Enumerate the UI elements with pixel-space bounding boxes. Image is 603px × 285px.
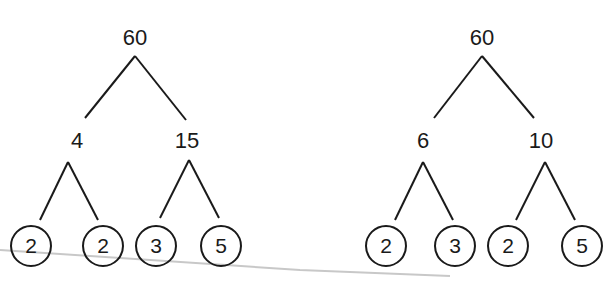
right-tree-root: 60	[470, 27, 494, 49]
left-tree-node-a: 4	[71, 130, 83, 152]
right-tree-leaf-1: 2	[365, 225, 407, 267]
left-tree-leaf-1: 2	[10, 225, 52, 267]
left-tree-root: 60	[123, 27, 147, 49]
right-tree-leaf-4: 5	[561, 225, 603, 267]
left-tree-leaf-2: 2	[82, 225, 124, 267]
right-tree-leaf-2: 3	[434, 225, 476, 267]
right-tree-node-a: 6	[417, 130, 429, 152]
right-tree-leaf-3: 2	[487, 225, 529, 267]
left-tree-leaf-4: 5	[200, 225, 242, 267]
right-tree-node-b: 10	[529, 130, 553, 152]
left-tree-leaf-3: 3	[135, 225, 177, 267]
left-tree-node-b: 15	[175, 130, 199, 152]
